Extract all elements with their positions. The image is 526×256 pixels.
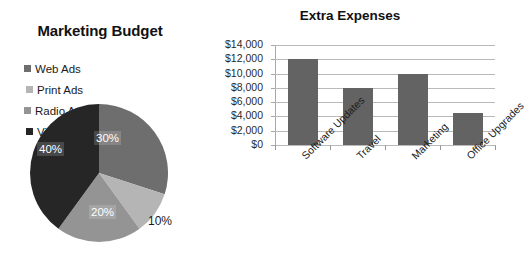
- y-axis-label: $0: [201, 138, 263, 150]
- pie-slice-label-radio-ads: 20%: [89, 205, 116, 219]
- x-axis-tick: [275, 145, 276, 150]
- y-axis-tick: [271, 74, 275, 75]
- x-axis-tick: [440, 145, 441, 150]
- y-axis-tick: [271, 45, 275, 46]
- legend-label-print-ads: Print Ads: [37, 84, 83, 96]
- bar-plot-area: $14,000$12,000$10,000$8,000$6,000$4,000$…: [275, 45, 495, 146]
- pie-chart-title: Marketing Budget: [0, 22, 200, 39]
- legend-swatch-web-ads: [24, 65, 31, 72]
- legend-swatch-print-ads: [26, 86, 33, 93]
- x-axis-tick: [495, 145, 496, 150]
- bar-chart-title: Extra Expenses: [205, 8, 495, 23]
- legend-label-web-ads: Web Ads: [35, 63, 81, 75]
- y-axis-label: $10,000: [201, 67, 263, 79]
- y-axis-tick: [271, 59, 275, 60]
- y-axis-label: $4,000: [201, 109, 263, 121]
- pie-slice-label-web-ads: 30%: [94, 131, 121, 145]
- pie-slice-label-video-ads: 40%: [37, 142, 64, 156]
- y-axis-label: $6,000: [201, 95, 263, 107]
- pie-slice-label-print-ads: 10%: [148, 214, 172, 228]
- y-axis-tick: [271, 88, 275, 89]
- x-axis-tick: [330, 145, 331, 150]
- y-axis-label: $12,000: [201, 52, 263, 64]
- extra-expenses-chart: Extra Expenses $14,000$12,000$10,000$8,0…: [205, 0, 501, 256]
- bar-software-updates: [288, 59, 318, 145]
- y-axis-tick: [271, 131, 275, 132]
- legend-item-print-ads: Print Ads: [24, 79, 109, 100]
- y-axis-label: $8,000: [201, 81, 263, 93]
- gridline: [275, 45, 495, 46]
- y-axis-label: $14,000: [201, 38, 263, 50]
- y-axis-tick: [271, 102, 275, 103]
- y-axis-tick: [271, 116, 275, 117]
- y-axis-label: $2,000: [201, 124, 263, 136]
- x-axis-tick: [385, 145, 386, 150]
- bar-marketing: [398, 74, 428, 145]
- legend-item-web-ads: Web Ads: [24, 58, 107, 79]
- marketing-budget-chart: Marketing Budget Web Ads Print Ads Radio…: [0, 0, 205, 256]
